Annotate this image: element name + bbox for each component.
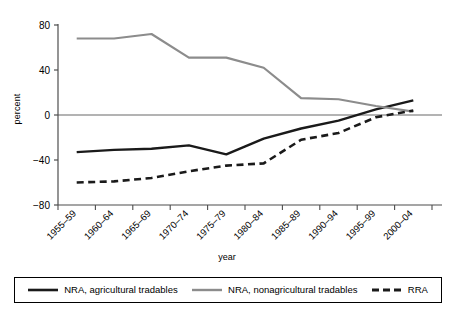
chart-figure: 80400−40−80 1955–591960–641965–691970–74…: [0, 0, 454, 311]
legend-label-nra-nonagricultural: NRA, nonagricultural tradables: [228, 285, 357, 295]
legend-item-nra-nonagricultural: NRA, nonagricultural tradables: [192, 285, 357, 295]
series-line: [77, 100, 414, 154]
svg-text:2000–04: 2000–04: [381, 208, 415, 242]
svg-text:40: 40: [39, 65, 51, 76]
legend-label-rra: RRA: [408, 285, 428, 295]
data-series-group: [77, 34, 414, 183]
y-axis-label: percent: [12, 79, 22, 139]
svg-text:1975–79: 1975–79: [194, 208, 228, 242]
svg-text:−40: −40: [33, 155, 50, 166]
svg-text:−80: −80: [33, 200, 50, 211]
svg-text:1995–99: 1995–99: [343, 208, 377, 242]
x-tick-labels: 1955–591960–641965–691970–741975–791980–…: [44, 208, 415, 242]
series-line: [77, 34, 414, 112]
svg-text:1990–94: 1990–94: [306, 208, 340, 242]
chart-canvas: 80400−40−80 1955–591960–641965–691970–74…: [0, 0, 454, 265]
legend-item-nra-agricultural: NRA, agricultural tradables: [28, 285, 178, 295]
svg-text:1955–59: 1955–59: [44, 208, 78, 242]
y-tick-labels: 80400−40−80: [33, 20, 50, 211]
svg-text:1965–69: 1965–69: [119, 208, 153, 242]
plot-area: 80400−40−80 1955–591960–641965–691970–74…: [0, 0, 454, 265]
x-axis-label: year: [0, 252, 454, 262]
legend-swatch-dashed-icon: [372, 285, 402, 295]
chart-legend: NRA, agricultural tradables NRA, nonagri…: [14, 277, 442, 303]
legend-swatch-line-icon: [28, 285, 58, 295]
legend-swatch-line-icon: [192, 285, 222, 295]
svg-text:0: 0: [44, 110, 50, 121]
svg-text:1980–84: 1980–84: [231, 208, 265, 242]
svg-text:1970–74: 1970–74: [156, 208, 190, 242]
legend-label-nra-agricultural: NRA, agricultural tradables: [64, 285, 178, 295]
svg-text:1960–64: 1960–64: [82, 208, 116, 242]
svg-text:80: 80: [39, 20, 51, 31]
legend-item-rra: RRA: [372, 285, 428, 295]
svg-text:1985–89: 1985–89: [269, 208, 303, 242]
